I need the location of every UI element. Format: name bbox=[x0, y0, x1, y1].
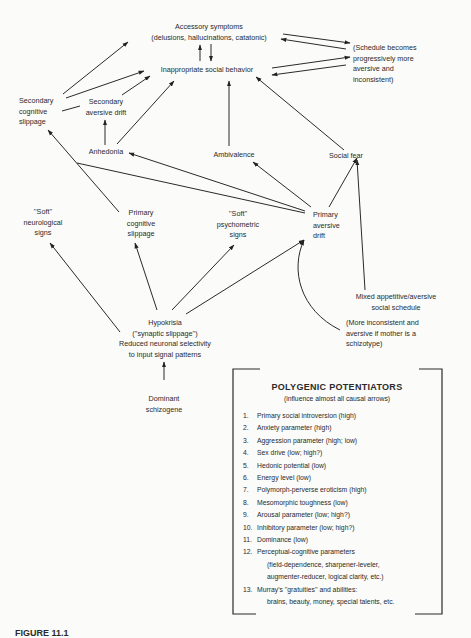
node-line: (''synaptic slippage'') bbox=[104, 329, 226, 340]
item-number: 11. bbox=[243, 534, 257, 546]
node-line: aversive and bbox=[353, 64, 417, 75]
item-text: Primary social introversion (high) bbox=[257, 410, 356, 422]
node-line: schizotype) bbox=[346, 339, 419, 350]
list-item: 12.Perceptual-cognitive parameters bbox=[243, 546, 394, 558]
list-item: 10.Inhibitory parameter (low; high?) bbox=[243, 522, 394, 534]
node-line: to input signal patterns bbox=[104, 350, 226, 361]
node-line: signs bbox=[15, 228, 71, 239]
figure-caption: FIGURE 11.1 bbox=[15, 628, 69, 638]
node-line: Anhedonia bbox=[84, 147, 128, 158]
node-line: progressively more bbox=[353, 54, 417, 65]
node-line: aversive drift bbox=[78, 108, 134, 119]
list-item: 1.Primary social introversion (high) bbox=[243, 410, 394, 422]
node-line: Mixed appetitive/aversive bbox=[342, 292, 450, 303]
list-item-continuation: augmenter-reducer, logical clarity, etc.… bbox=[243, 571, 394, 583]
list-item: 6.Energy level (low) bbox=[243, 472, 394, 484]
node-line: (More inconsistent and bbox=[346, 318, 419, 329]
list-item: 11.Dominance (low) bbox=[243, 534, 394, 546]
item-text: augmenter-reducer, logical clarity, etc.… bbox=[257, 571, 384, 583]
node-line: Inappropriate social behavior bbox=[144, 65, 270, 76]
item-text: (field-dependence, sharpener-leveler, bbox=[257, 559, 380, 571]
node-line: Reduced neuronal selectivity bbox=[104, 339, 226, 350]
node-hypokrisia: Hypokrisia (''synaptic slippage'') Reduc… bbox=[104, 318, 226, 360]
node-line: Accessory symptoms bbox=[130, 22, 288, 33]
potentiators-list: 1.Primary social introversion (high) 2.A… bbox=[243, 410, 394, 609]
node-line: ''Soft'' bbox=[15, 207, 71, 218]
item-text: Murray's ''gratuities'' and abilities: bbox=[257, 584, 357, 596]
list-item: 4.Sex drive (low; high?) bbox=[243, 447, 394, 459]
item-text: Hedonic potential (low) bbox=[257, 460, 326, 472]
node-line: cognitive bbox=[19, 107, 53, 118]
node-line: schizogene bbox=[138, 405, 190, 416]
list-item: 8.Mesomorphic toughness (low) bbox=[243, 497, 394, 509]
node-mixed-schedule-note: (More inconsistent and aversive if mothe… bbox=[346, 318, 419, 350]
item-text: Anxiety parameter (high) bbox=[257, 422, 331, 434]
item-text: Perceptual-cognitive parameters bbox=[257, 546, 355, 558]
node-social-fear: Social fear bbox=[322, 151, 370, 162]
node-dominant-schizogene: Dominant schizogene bbox=[138, 394, 190, 415]
item-number: 12. bbox=[243, 546, 257, 558]
node-line: ''Soft'' bbox=[208, 209, 268, 220]
item-text: Dominance (low) bbox=[257, 534, 308, 546]
item-number: 9. bbox=[243, 509, 257, 521]
item-number: 6. bbox=[243, 472, 257, 484]
item-text: Polymorph-perverse eroticism (high) bbox=[257, 484, 367, 496]
item-number: 2. bbox=[243, 422, 257, 434]
item-text: Sex drive (low; high?) bbox=[257, 447, 322, 459]
node-ambivalence: Ambivalence bbox=[210, 150, 258, 161]
node-line: (Schedule becomes bbox=[353, 43, 417, 54]
node-line: Secondary bbox=[78, 97, 134, 108]
node-mixed-schedule: Mixed appetitive/aversive social schedul… bbox=[342, 292, 450, 313]
node-line: aversive bbox=[313, 221, 340, 232]
item-text: Aggression parameter (high; low) bbox=[257, 435, 357, 447]
node-line: Secondary bbox=[19, 96, 53, 107]
node-line: drift bbox=[313, 231, 340, 242]
list-item: 2.Anxiety parameter (high) bbox=[243, 422, 394, 434]
item-number: 7. bbox=[243, 484, 257, 496]
item-number: 1. bbox=[243, 410, 257, 422]
polygenic-potentiators-box: POLYGENIC POTENTIATORS (influence almost… bbox=[233, 368, 441, 614]
list-item-continuation: (field-dependence, sharpener-leveler, bbox=[243, 559, 394, 571]
list-item: 13.Murray's ''gratuities'' and abilities… bbox=[243, 584, 394, 596]
potentiators-title: POLYGENIC POTENTIATORS bbox=[233, 382, 441, 392]
node-line: psychometric bbox=[208, 220, 268, 231]
item-number: 5. bbox=[243, 460, 257, 472]
node-soft-neurological-signs: ''Soft'' neurological signs bbox=[15, 207, 71, 239]
list-item: 5.Hedonic potential (low) bbox=[243, 460, 394, 472]
node-secondary-aversive-drift: Secondary aversive drift bbox=[78, 97, 134, 118]
node-line: aversive if mother is a bbox=[346, 329, 419, 340]
item-text: Energy level (low) bbox=[257, 472, 311, 484]
list-item: 3.Aggression parameter (high; low) bbox=[243, 435, 394, 447]
list-item: 9.Arousal parameter (low; high?) bbox=[243, 509, 394, 521]
item-number: 10. bbox=[243, 522, 257, 534]
item-number: 3. bbox=[243, 435, 257, 447]
node-schedule-becomes: (Schedule becomes progressively more ave… bbox=[353, 43, 417, 85]
node-accessory-symptoms: Accessory symptoms (delusions, hallucina… bbox=[130, 22, 288, 43]
node-soft-psychometric-signs: ''Soft'' psychometric signs bbox=[208, 209, 268, 241]
node-line: Primary bbox=[114, 208, 168, 219]
node-line: neurological bbox=[15, 218, 71, 229]
node-primary-aversive-drift: Primary aversive drift bbox=[313, 210, 340, 242]
node-line: signs bbox=[208, 230, 268, 241]
node-line: (delusions, hallucinations, catatonic) bbox=[130, 33, 288, 44]
node-primary-cognitive-slippage: Primary cognitive slippage bbox=[114, 208, 168, 240]
node-line: slippage bbox=[19, 117, 53, 128]
node-line: Ambivalence bbox=[210, 150, 258, 161]
item-text: brains, beauty, money, special talents, … bbox=[257, 596, 394, 608]
node-anhedonia: Anhedonia bbox=[84, 147, 128, 158]
node-inappropriate-social-behavior: Inappropriate social behavior bbox=[144, 65, 270, 76]
potentiators-subtitle: (influence almost all causal arrows) bbox=[233, 395, 441, 402]
node-line: slippage bbox=[114, 229, 168, 240]
node-line: Dominant bbox=[138, 394, 190, 405]
item-text: Mesomorphic toughness (low) bbox=[257, 497, 348, 509]
node-line: cognitive bbox=[114, 219, 168, 230]
item-number: 8. bbox=[243, 497, 257, 509]
item-text: Inhibitory parameter (low; high?) bbox=[257, 522, 354, 534]
node-secondary-cognitive-slippage: Secondary cognitive slippage bbox=[19, 96, 53, 128]
item-number: 13. bbox=[243, 584, 257, 596]
node-line: Social fear bbox=[322, 151, 370, 162]
node-line: inconsistent) bbox=[353, 75, 417, 86]
node-line: social schedule bbox=[342, 303, 450, 314]
node-line: Hypokrisia bbox=[104, 318, 226, 329]
item-text: Arousal parameter (low; high?) bbox=[257, 509, 350, 521]
